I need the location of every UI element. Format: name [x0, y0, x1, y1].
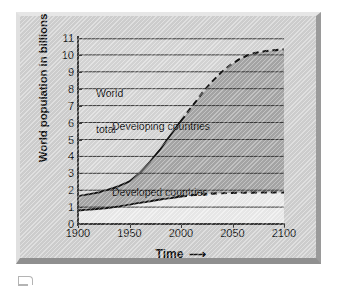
y-tickmark-8 [77, 89, 82, 90]
x-tick-1900: 1900 [58, 227, 98, 239]
x-tick-2050: 2050 [213, 227, 253, 239]
y-axis-tick-labels: 11 10 9 8 7 6 5 4 3 2 1 0 [50, 38, 74, 224]
y-tick-9: 9 [52, 67, 74, 77]
figure-frame: 11 10 9 8 7 6 5 4 3 2 1 0 1 [16, 12, 321, 264]
y-tickmark-2 [77, 190, 82, 191]
y-axis-title: World population in billions [37, 13, 49, 163]
label-world-total: World total [96, 63, 123, 159]
x-axis-title-group: Time ⟶ [77, 247, 285, 261]
scan-artifact-icon [18, 276, 33, 285]
y-axis-line [77, 36, 79, 226]
x-tick-2100: 2100 [264, 227, 304, 239]
y-tickmark-1 [77, 207, 82, 208]
y-tick-3: 3 [52, 168, 74, 178]
label-world-total-line1: World [96, 87, 123, 99]
y-tickmark-9 [77, 72, 82, 73]
y-tick-6: 6 [52, 118, 74, 128]
y-tick-5: 5 [52, 135, 74, 145]
y-tickmark-6 [77, 123, 82, 124]
y-tickmark-3 [77, 173, 82, 174]
figure-inner-panel: 11 10 9 8 7 6 5 4 3 2 1 0 1 [20, 16, 316, 258]
x-axis-title: Time [156, 247, 184, 261]
y-tick-1: 1 [52, 202, 74, 212]
y-tickmark-7 [77, 106, 82, 107]
y-tick-7: 7 [52, 101, 74, 111]
x-tick-2000: 2000 [161, 227, 201, 239]
y-tickmark-11 [77, 38, 82, 39]
y-tick-8: 8 [52, 84, 74, 94]
y-tick-4: 4 [52, 151, 74, 161]
y-tick-10: 10 [52, 50, 74, 60]
label-developed-countries: Developed countries [112, 186, 208, 198]
x-tick-1950: 1950 [110, 227, 150, 239]
y-tickmark-5 [77, 140, 82, 141]
y-tick-2: 2 [52, 185, 74, 195]
arrow-right-icon: ⟶ [189, 247, 206, 261]
label-developing-countries: Developing countries [112, 120, 210, 132]
y-tickmark-10 [77, 55, 82, 56]
y-tick-11: 11 [52, 33, 74, 43]
y-tickmark-4 [77, 156, 82, 157]
